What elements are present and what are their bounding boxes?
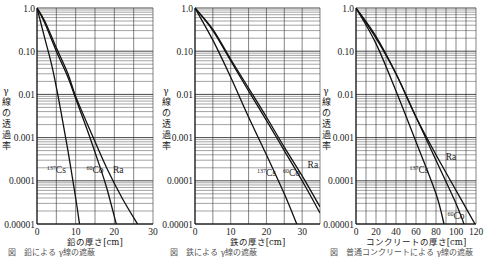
caption-lead: 図 鉛による γ線の遮蔽 bbox=[8, 246, 95, 257]
curve-60co bbox=[195, 8, 320, 213]
series-group bbox=[195, 8, 320, 224]
x-tick-label: 120 bbox=[469, 227, 484, 237]
y-axis-label-char: 率 bbox=[322, 140, 331, 151]
x-tick-label: 20 bbox=[262, 227, 272, 237]
concrete-chart: 1.00.100.010.0010.00010.0000102040608010… bbox=[320, 0, 485, 256]
y-axis-label-char: 過 bbox=[162, 130, 171, 140]
x-tick-label: 100 bbox=[449, 227, 464, 237]
y-tick-label: 0.01 bbox=[176, 90, 193, 100]
y-tick-label: 0.10 bbox=[337, 47, 354, 57]
iron-chart: 1.00.100.010.0010.00010.000010102030鉄の厚さ… bbox=[160, 0, 325, 256]
curve-137cs bbox=[195, 8, 297, 224]
y-axis-label-char: の bbox=[2, 108, 11, 118]
x-tick-label: 40 bbox=[391, 227, 401, 237]
curve-60co bbox=[356, 8, 464, 224]
y-tick-label: 1.0 bbox=[181, 4, 193, 14]
series-annotation: 60Co bbox=[86, 165, 103, 175]
y-tick-label: 1.0 bbox=[342, 4, 354, 14]
x-tick-label: 10 bbox=[71, 227, 81, 237]
series-group bbox=[37, 8, 138, 224]
y-axis-label-char: 線 bbox=[2, 96, 11, 107]
series-annotation: 137Cs bbox=[47, 165, 66, 175]
series-annotation: 60Co bbox=[447, 211, 464, 221]
x-tick-label: 30 bbox=[148, 227, 158, 237]
series-annotation: Ra bbox=[113, 165, 124, 175]
y-axis-label-char: 透 bbox=[2, 119, 11, 129]
x-tick-label: 0 bbox=[193, 227, 198, 237]
x-tick-label: 20 bbox=[110, 227, 120, 237]
y-tick-label: 0.00001 bbox=[162, 220, 193, 230]
grid bbox=[195, 8, 320, 224]
y-axis-label-char: 線 bbox=[162, 96, 171, 107]
y-axis-label-char: の bbox=[322, 108, 331, 118]
curve-137cs bbox=[37, 8, 80, 224]
y-tick-label: 0.10 bbox=[176, 47, 193, 57]
iron-attenuation-plot: 1.00.100.010.0010.00010.000010102030鉄の厚さ… bbox=[160, 0, 325, 256]
y-tick-label: 0.01 bbox=[337, 90, 354, 100]
y-axis-label-char: の bbox=[162, 108, 171, 118]
y-axis-label-char: 線 bbox=[322, 96, 331, 107]
x-tick-label: 10 bbox=[226, 227, 236, 237]
x-tick-label: 80 bbox=[431, 227, 441, 237]
x-tick-label: 30 bbox=[297, 227, 307, 237]
y-tick-label: 0.001 bbox=[172, 133, 194, 143]
series-annotation: 137Cs bbox=[409, 165, 428, 175]
y-tick-label: 0.0001 bbox=[167, 176, 193, 186]
caption-iron: 図 鉄による γ線の遮蔽 bbox=[170, 246, 257, 257]
y-axis-label-char: γ bbox=[323, 86, 328, 96]
x-tick-label: 0 bbox=[354, 227, 359, 237]
series-group bbox=[356, 8, 475, 224]
concrete-attenuation-plot: 1.00.100.010.0010.00010.0000102040608010… bbox=[320, 0, 485, 256]
y-tick-label: 0.001 bbox=[14, 133, 36, 143]
grid bbox=[37, 8, 153, 224]
x-tick-label: 20 bbox=[371, 227, 381, 237]
y-tick-label: 0.001 bbox=[333, 133, 355, 143]
series-annotation: Ra bbox=[446, 152, 457, 162]
caption-concrete: 図 普通コンクリートによる γ線の遮蔽 bbox=[330, 246, 473, 257]
y-axis-label-char: 過 bbox=[2, 130, 11, 140]
x-tick-label: 0 bbox=[35, 227, 40, 237]
y-axis-label-char: 過 bbox=[322, 130, 331, 140]
y-axis-label-char: 透 bbox=[322, 119, 331, 129]
lead-attenuation-plot: 1.00.100.010.0010.00010.000010102030鉛の厚さ… bbox=[0, 0, 160, 256]
y-tick-label: 1.0 bbox=[23, 4, 35, 14]
series-annotation: 60Co bbox=[283, 168, 300, 178]
y-axis-label-char: 率 bbox=[2, 140, 11, 151]
curve-60co bbox=[37, 8, 116, 224]
y-tick-label: 0.0001 bbox=[328, 176, 354, 186]
y-axis-label-char: 透 bbox=[162, 119, 171, 129]
x-tick-label: 60 bbox=[411, 227, 421, 237]
curve-137cs bbox=[356, 8, 444, 224]
series-annotation: Ra bbox=[308, 160, 319, 170]
y-tick-label: 0.10 bbox=[18, 47, 35, 57]
y-tick-label: 0.00001 bbox=[323, 220, 354, 230]
y-tick-label: 0.0001 bbox=[9, 176, 35, 186]
series-annotation: 137Cs bbox=[257, 168, 276, 178]
y-axis-label-char: γ bbox=[3, 86, 8, 96]
y-axis-label-char: γ bbox=[163, 86, 168, 96]
y-tick-label: 0.01 bbox=[18, 90, 35, 100]
lead-chart: 1.00.100.010.0010.00010.000010102030鉛の厚さ… bbox=[0, 0, 160, 256]
y-tick-label: 0.00001 bbox=[4, 220, 35, 230]
y-axis-label-char: 率 bbox=[162, 140, 171, 151]
